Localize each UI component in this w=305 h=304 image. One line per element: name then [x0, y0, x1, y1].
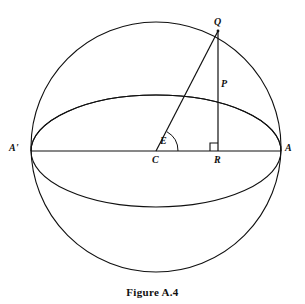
right-angle-mark-icon: [210, 143, 218, 151]
sphere-outline-circle: [31, 22, 281, 272]
angle-arc-e: [167, 132, 178, 151]
figure-caption: Figure A.4: [0, 286, 305, 298]
point-label-p: P: [221, 79, 227, 89]
point-label-c: C: [152, 155, 159, 165]
point-label-r: R: [214, 155, 221, 165]
radius-line-c-q: [156, 31, 218, 151]
figure-a4: Q P E A' A C R Figure A.4: [0, 0, 305, 304]
vertex-dot-q: [217, 30, 220, 33]
point-label-a-prime: A': [9, 143, 18, 153]
point-label-a: A: [285, 143, 292, 153]
point-label-q: Q: [214, 17, 221, 27]
sphere-diagram-canvas: [0, 0, 305, 304]
angle-label-e: E: [160, 136, 167, 146]
upper-latitude-arc: [31, 95, 281, 151]
